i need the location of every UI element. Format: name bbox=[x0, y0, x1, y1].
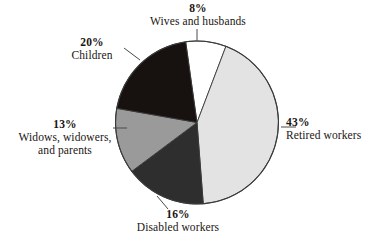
slice-label-disabled-workers: 16% Disabled workers bbox=[108, 208, 248, 234]
slice-name-wives: Wives and husbands bbox=[118, 15, 278, 28]
slice-name-retired: Retired workers bbox=[286, 129, 374, 142]
slice-name-children: Children bbox=[50, 49, 134, 62]
pie-slices-group bbox=[116, 41, 279, 204]
slice-label-children: 20% Children bbox=[50, 36, 134, 62]
slice-percent-wives: 8% bbox=[118, 2, 278, 15]
slice-name-disabled: Disabled workers bbox=[108, 221, 248, 234]
slice-label-wives-and-husbands: 8% Wives and husbands bbox=[118, 2, 278, 28]
slice-percent-children: 20% bbox=[50, 36, 134, 49]
slice-percent-widows: 13% bbox=[2, 118, 128, 131]
slice-name-widows-line1: Widows, widowers, bbox=[2, 131, 128, 144]
slice-percent-retired: 43% bbox=[286, 116, 374, 129]
slice-label-retired-workers: 43% Retired workers bbox=[286, 116, 374, 142]
slice-label-widows-widowers-and-parents: 13% Widows, widowers, and parents bbox=[2, 118, 128, 157]
slice-percent-disabled: 16% bbox=[108, 208, 248, 221]
slice-name-widows-line2: and parents bbox=[2, 144, 128, 157]
pie-chart-figure: 8% Wives and husbands 43% Retired worker… bbox=[0, 0, 374, 246]
